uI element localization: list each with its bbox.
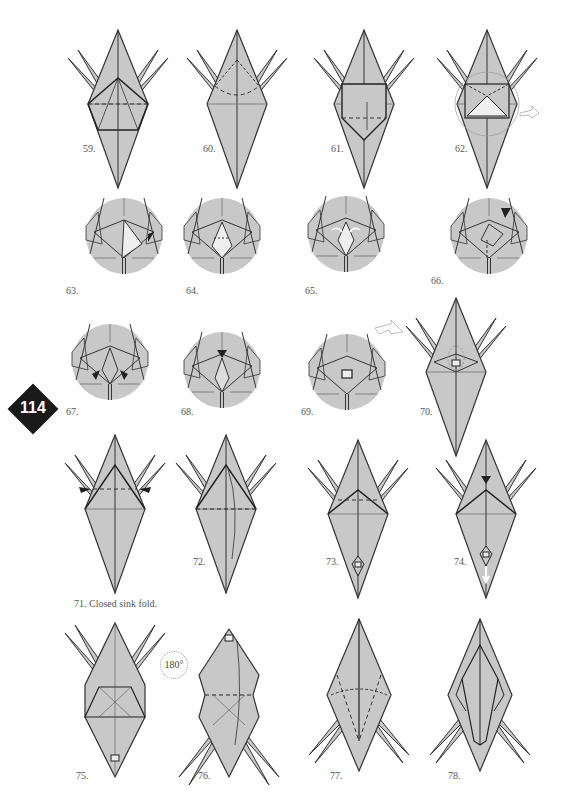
origami-diagram-icon: [115, 705, 116, 706]
origami-diagram-icon: [486, 520, 487, 521]
page-number-badge: 114: [8, 384, 58, 434]
step-label: 67.: [66, 406, 79, 417]
origami-diagram-icon: [359, 705, 360, 706]
step-label: 73.: [326, 556, 339, 567]
step-caption: 71. Closed sink fold.: [74, 598, 157, 609]
origami-diagram-icon: [487, 110, 488, 111]
step-label: 60.: [203, 143, 216, 154]
origami-diagram-icon: [226, 515, 227, 516]
step-label: 63.: [66, 285, 79, 296]
page-number: 114: [8, 399, 58, 417]
origami-diagram-icon: [118, 110, 119, 111]
origami-detail-icon: [347, 372, 348, 373]
step-label: 66.: [431, 275, 444, 286]
origami-diagram-icon: [358, 520, 359, 521]
origami-diagram-icon: [115, 515, 116, 516]
turn-over-icon: [520, 106, 539, 118]
origami-diagram-icon: [364, 110, 365, 111]
step-label: 70.: [420, 406, 433, 417]
step-label: 74.: [454, 556, 467, 567]
step-label: 64.: [186, 285, 199, 296]
origami-detail-icon: [110, 362, 111, 363]
origami-detail-icon: [346, 234, 347, 235]
step-label: 72.: [193, 556, 206, 567]
step-label: 78.: [448, 770, 461, 781]
origami-detail-icon: [222, 236, 223, 237]
step-label: 61.: [331, 143, 344, 154]
rotate-180-badge: 180°: [160, 651, 188, 679]
origami-detail-icon: [222, 370, 223, 371]
origami-diagram-icon: [237, 110, 238, 111]
origami-detail-icon: [489, 236, 490, 237]
step-label: 75.: [76, 770, 89, 781]
origami-diagram-icon: [480, 705, 481, 706]
step-label: 65.: [305, 285, 318, 296]
origami-diagram-icon: [456, 378, 457, 379]
turn-over-icon: [375, 320, 403, 334]
origami-detail-icon: [124, 236, 125, 237]
step-label: 59.: [83, 143, 96, 154]
step-label: 69.: [301, 406, 314, 417]
step-label: 77.: [330, 770, 343, 781]
origami-diagram-icon: [229, 705, 230, 706]
step-label: 62.: [455, 143, 468, 154]
step-label: 76.: [198, 770, 211, 781]
step-label: 68.: [181, 406, 194, 417]
